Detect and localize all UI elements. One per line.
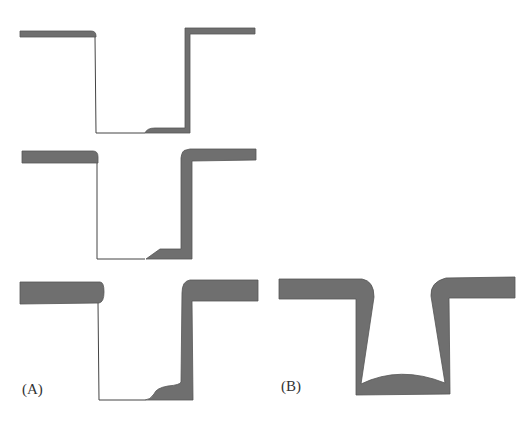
film-left-pad-a3: [20, 282, 104, 304]
trench-outline-a3: [98, 303, 145, 400]
panel-label-a: (A): [22, 381, 43, 398]
panel-label-b: (B): [281, 378, 301, 395]
profile-a1: [20, 28, 255, 133]
diagram-canvas: [0, 0, 530, 426]
profile-a2: [22, 149, 256, 259]
film-right-a2: [146, 149, 256, 259]
film-right-a3: [145, 280, 258, 400]
profile-a3: [20, 280, 258, 400]
film-left-pad-a1: [20, 31, 96, 37]
film-right-a1: [145, 28, 255, 133]
film-left-pad-a2: [22, 151, 98, 163]
film-conformal-b: [279, 277, 515, 395]
profile-b: [279, 277, 515, 395]
trench-outline-a2: [97, 163, 145, 259]
trench-outline-a1: [95, 37, 145, 133]
